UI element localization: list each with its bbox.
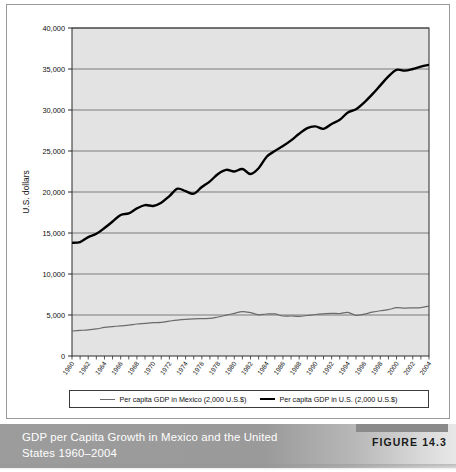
x-axis-tick-label: 1986 <box>272 360 286 376</box>
y-axis-tick-label: 35,000 <box>42 65 65 74</box>
x-axis-tick-label: 1984 <box>256 360 270 376</box>
figure-caption: GDP per Capita Growth in Mexico and the … <box>22 430 292 461</box>
x-axis-tick-label: 1974 <box>175 360 189 376</box>
x-axis-tick-label: 1978 <box>207 360 221 376</box>
x-axis-tick-label: 1968 <box>126 360 140 376</box>
chart-card: 05,00010,00015,00020,00025,00030,00035,0… <box>6 4 450 419</box>
legend-item-us: Per capita GDP in U.S. (2,000 U.S.$) <box>260 395 397 404</box>
x-axis-tick-label: 1982 <box>240 360 254 376</box>
x-axis-tick-label: 1972 <box>159 360 173 376</box>
legend-swatch-us-icon <box>260 398 275 400</box>
y-axis-tick-label: 15,000 <box>42 229 65 238</box>
x-axis-tick-label: 1976 <box>191 360 205 376</box>
legend-label-us: Per capita GDP in U.S. (2,000 U.S.$) <box>279 395 397 404</box>
x-axis-tick-label: 1970 <box>142 360 156 376</box>
y-axis-tick-label: 25,000 <box>42 147 65 156</box>
y-axis-tick-label: 40,000 <box>42 24 65 33</box>
x-axis-tick-label: 1998 <box>369 360 383 376</box>
figure-tag-bar <box>356 424 448 432</box>
legend-swatch-mexico-icon <box>100 399 115 400</box>
x-axis-tick-label: 1994 <box>337 360 351 376</box>
y-axis-tick-label: 5,000 <box>47 311 66 320</box>
figure-root: 05,00010,00015,00020,00025,00030,00035,0… <box>0 0 456 472</box>
x-axis-tick-label: 1988 <box>288 360 302 376</box>
x-axis-tick-label: 1964 <box>94 360 108 376</box>
banner-fade <box>0 464 456 470</box>
x-axis-tick-label: 1996 <box>353 360 367 376</box>
x-axis-tick-label: 1980 <box>223 360 237 376</box>
x-axis-tick-label: 1992 <box>321 360 335 376</box>
caption-banner: GDP per Capita Growth in Mexico and the … <box>0 424 456 468</box>
x-axis-tick-label: 2004 <box>418 360 432 376</box>
x-axis-tick-label: 1990 <box>305 360 319 376</box>
y-axis-title: U.S. dollars <box>21 170 31 213</box>
x-axis-tick-label: 2002 <box>402 360 416 376</box>
figure-number: FIGURE 14.3 <box>372 436 447 448</box>
legend-label-mexico: Per capita GDP in Mexico (2,000 U.S.$) <box>119 395 246 404</box>
x-axis-tick-label: 2000 <box>386 360 400 376</box>
chart-legend: Per capita GDP in Mexico (2,000 U.S.$) P… <box>69 390 429 408</box>
line-chart: 05,00010,00015,00020,00025,00030,00035,0… <box>7 5 449 418</box>
x-axis-tick-label: 1960 <box>61 360 75 376</box>
y-axis-tick-label: 20,000 <box>42 188 65 197</box>
x-axis-tick-label: 1966 <box>110 360 124 376</box>
y-axis-tick-label: 0 <box>61 352 65 361</box>
x-axis-tick-label: 1962 <box>77 360 91 376</box>
legend-item-mexico: Per capita GDP in Mexico (2,000 U.S.$) <box>100 395 246 404</box>
y-axis-tick-label: 10,000 <box>42 270 65 279</box>
y-axis-tick-label: 30,000 <box>42 106 65 115</box>
